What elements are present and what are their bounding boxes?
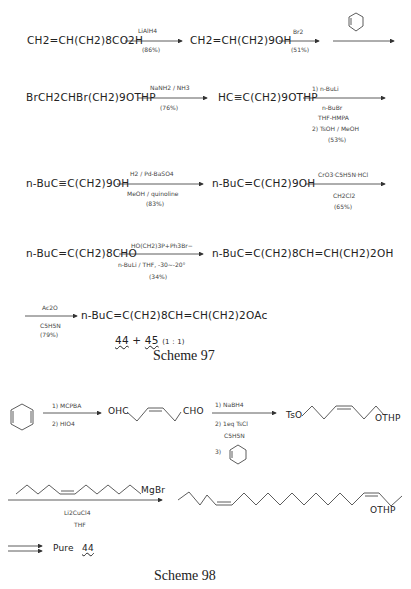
solvent: THF-HMPA [318, 114, 349, 121]
step2: 2) 1eq TsCl [215, 420, 248, 427]
reagent-br2: Br2 [293, 28, 303, 35]
starting-material: CH2=CH(CH2)8CO2H [27, 34, 143, 46]
conditions: n-BuLi / THF, -30~-20° [118, 261, 186, 268]
reagent: H2 / Pd-BaSO4 [130, 170, 174, 177]
reagent: n-BuBr [322, 104, 342, 111]
caption-scheme-97: Scheme 97 [153, 348, 215, 364]
tso: TsO [286, 410, 302, 420]
yield: (34%) [149, 273, 167, 280]
step2: 2) TsOH / MeOH [312, 125, 359, 132]
othp: OTHP [375, 413, 401, 423]
dibromide: BrCH2CHBr(CH2)9OTHP [26, 91, 156, 103]
reagent: CrO3·C5H5N·HCl [318, 171, 368, 178]
solvent: MeOH / quinoline [127, 190, 179, 197]
step2: 2) HIO4 [52, 420, 75, 427]
yield: (51%) [291, 46, 309, 53]
reagent: Ac2O [42, 304, 58, 311]
base: C5H5N [40, 322, 61, 329]
dienol: n-BuC=C(CH2)8CH=CH(CH2)2OH [212, 247, 394, 259]
scheme-drawing [0, 0, 411, 589]
yield: (65%) [334, 203, 352, 210]
yield: (79%) [40, 331, 58, 338]
othp: OTHP [370, 505, 396, 515]
yield: (86%) [142, 46, 160, 53]
step1: 1) MCPBA [52, 402, 81, 409]
base: C5H5N [224, 432, 245, 439]
yield: (76%) [160, 104, 178, 111]
reagent: NaNH2 / NH3 [150, 84, 190, 91]
aldehyde: n-BuC=C(CH2)8CHO [26, 247, 137, 259]
ratio: (1 : 1) [162, 338, 185, 346]
pure-label: Pure [53, 543, 74, 553]
step1: 1) n-BuLi [312, 85, 339, 92]
acetate-product: n-BuC=C(CH2)8CH=CH(CH2)2OAc [81, 309, 267, 321]
reagent-lialh4: LiAlH4 [138, 27, 157, 34]
plus: + [132, 334, 141, 346]
solvent: THF [74, 521, 86, 528]
mgbr: MgBr [141, 485, 165, 495]
catalyst: Li2CuCl4 [64, 509, 91, 516]
cho: CHO [183, 406, 204, 416]
alkynol: n-BuC≡C(CH2)9OH [26, 177, 129, 189]
yield: (53%) [328, 136, 346, 143]
compound-44: 44 [82, 543, 94, 553]
alkenol: n-BuC=C(CH2)9OH [212, 177, 315, 189]
yield: (83%) [146, 200, 164, 207]
compound-45: 45 [145, 334, 159, 346]
product: CH2=CH(CH2)9OH [190, 34, 292, 46]
step1: 1) NaBH4 [215, 401, 244, 408]
reagent: HO(CH2)3P+Ph3Br− [131, 242, 193, 249]
alkyne: HC≡C(CH2)9OTHP [218, 91, 318, 103]
solvent: CH2Cl2 [333, 192, 355, 199]
step3: 3) [215, 448, 221, 455]
caption-scheme-98: Scheme 98 [154, 568, 216, 584]
compound-44: 44 [115, 334, 129, 346]
ohc: OHC [108, 406, 129, 416]
